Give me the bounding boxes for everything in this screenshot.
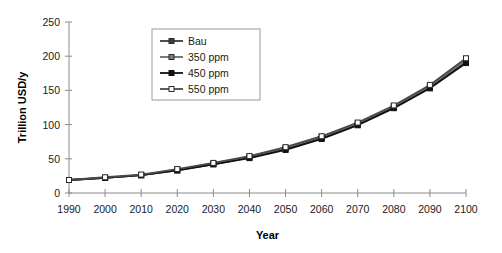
y-tick-label-0: 0: [54, 187, 60, 199]
x-tick-label-2070: 2070: [346, 203, 370, 215]
y-tick-label-150: 150: [42, 84, 60, 96]
x-tick-label-1990: 1990: [57, 203, 81, 215]
x-tick-label-2060: 2060: [310, 203, 334, 215]
chart-container: 0501001502002501990200020102020203020402…: [0, 0, 502, 253]
y-tick-label-200: 200: [42, 50, 60, 62]
data-point-550-ppm-2090: [427, 82, 432, 87]
x-tick-label-2030: 2030: [202, 203, 226, 215]
line-chart: 0501001502002501990200020102020203020402…: [0, 0, 502, 253]
data-point-450-ppm-2100: [464, 61, 469, 66]
data-point-550-ppm-2000: [103, 175, 108, 180]
legend-label-550-ppm: 550 ppm: [188, 83, 229, 95]
x-tick-label-2100: 2100: [454, 203, 478, 215]
legend-label-450-ppm: 450 ppm: [188, 67, 229, 79]
data-point-550-ppm-2080: [391, 103, 396, 108]
data-point-550-ppm-1990: [67, 178, 72, 183]
x-tick-label-2000: 2000: [93, 203, 117, 215]
legend-label-bau: Bau: [188, 35, 207, 47]
series-line-350-ppm: [69, 60, 466, 180]
legend-marker-450-ppm: [169, 71, 174, 76]
legend-label-350-ppm: 350 ppm: [188, 51, 229, 63]
y-tick-label-50: 50: [48, 153, 60, 165]
data-point-550-ppm-2030: [211, 160, 216, 165]
data-point-550-ppm-2020: [175, 167, 180, 172]
x-tick-label-2020: 2020: [166, 203, 190, 215]
x-tick-label-2080: 2080: [382, 203, 406, 215]
legend-marker-550-ppm: [169, 87, 174, 92]
series-line-bau: [69, 62, 466, 180]
y-tick-label-100: 100: [42, 119, 60, 131]
x-tick-label-2050: 2050: [274, 203, 298, 215]
data-point-550-ppm-2100: [464, 56, 469, 61]
series-line-450-ppm: [69, 63, 466, 180]
x-axis-title: Year: [256, 229, 280, 241]
series-line-550-ppm: [69, 58, 466, 180]
x-tick-label-2040: 2040: [238, 203, 262, 215]
legend-marker-bau: [169, 39, 174, 44]
data-point-550-ppm-2050: [283, 145, 288, 150]
data-point-550-ppm-2060: [319, 134, 324, 139]
y-tick-label-250: 250: [42, 16, 60, 28]
x-tick-label-2090: 2090: [418, 203, 442, 215]
data-point-550-ppm-2040: [247, 154, 252, 159]
data-point-550-ppm-2070: [355, 120, 360, 125]
legend-marker-350-ppm: [169, 55, 174, 60]
y-axis-title: Trillion USD/y: [16, 71, 28, 143]
x-tick-label-2010: 2010: [130, 203, 154, 215]
data-point-550-ppm-2010: [139, 172, 144, 177]
